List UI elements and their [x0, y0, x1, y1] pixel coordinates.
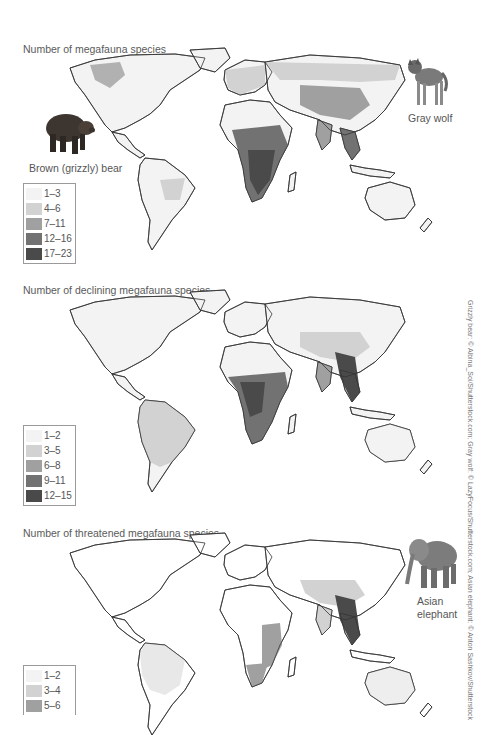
legend-item: 6–8 [26, 458, 75, 473]
legend-item: 3–5 [26, 443, 75, 458]
legend-swatch [26, 685, 42, 697]
bear-image [40, 106, 96, 156]
legend-item: 1–2 [26, 428, 75, 443]
legend-swatch [26, 700, 42, 712]
panel-declining-species: Number of declining megafauna species 1–… [0, 270, 462, 510]
legend-item: 5–6 [26, 698, 75, 713]
legend-swatch [26, 670, 42, 682]
legend-swatch [26, 475, 42, 487]
legend-item: 4–6 [26, 201, 75, 216]
legend-swatch [26, 445, 42, 457]
legend-swatch [26, 430, 42, 442]
legend-item: 3–4 [26, 683, 75, 698]
elephant-label-line2: elephant [417, 608, 457, 621]
elephant-label-line1: Asian [417, 595, 457, 608]
elephant-image [405, 534, 461, 592]
bear-label: Brown (grizzly) bear [29, 162, 122, 175]
panel-threatened-species: Number of threatened megafauna species A… [0, 510, 462, 707]
legend-swatch [26, 233, 42, 245]
legend-item: 1–3 [26, 186, 75, 201]
legend-swatch [26, 188, 42, 200]
panel-megafauna-species: Number of megafauna species Brown ( [0, 0, 462, 270]
legend: 1–2 3–5 6–8 9–11 12–15 [23, 425, 76, 506]
wolf-image [405, 57, 449, 109]
legend-swatch [26, 218, 42, 230]
legend-item: 12–16 [26, 231, 75, 246]
legend-item: 7–11 [26, 216, 75, 231]
wolf-label: Gray wolf [408, 112, 452, 125]
legend: 1–2 3–4 5–6 [23, 665, 76, 715]
elephant-label: Asian elephant [417, 595, 457, 621]
photo-credit: Grizzly bear: © Albina_Soi/Shutterstock.… [467, 300, 474, 700]
legend-swatch [26, 460, 42, 472]
legend-item: 9–11 [26, 473, 75, 488]
legend-swatch [26, 203, 42, 215]
legend-item: 1–2 [26, 668, 75, 683]
